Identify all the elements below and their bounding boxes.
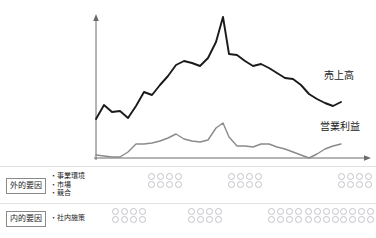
series-line (96, 17, 341, 119)
cluster-dot (228, 181, 235, 188)
cluster-dot (323, 208, 330, 215)
cluster-dot (246, 181, 253, 188)
cluster-dot (286, 208, 293, 215)
circle-cluster-internal (112, 208, 148, 224)
cluster-dot (358, 216, 365, 223)
cluster-dot (206, 208, 213, 215)
circle-cluster-external (338, 173, 374, 189)
cluster-dot (268, 216, 275, 223)
cluster-dot (365, 181, 372, 188)
circle-cluster-external (148, 173, 184, 189)
circle-cluster-internal (305, 208, 341, 224)
series-label-sales: 売上高 (324, 70, 354, 82)
series-line (96, 123, 341, 158)
circle-cluster-internal (188, 208, 224, 224)
cluster-dot (314, 216, 321, 223)
cluster-dot (206, 216, 213, 223)
cluster-dot (367, 208, 374, 215)
cluster-dot (215, 216, 222, 223)
cluster-dot (268, 208, 275, 215)
divider-bottom (0, 203, 376, 204)
cluster-dot (228, 173, 235, 180)
cluster-dot (356, 173, 363, 180)
factor-items-internal: ・社内施策 (50, 214, 85, 223)
cluster-dot (349, 216, 356, 223)
cluster-dot (112, 208, 119, 215)
cluster-dot (286, 216, 293, 223)
cluster-dot (338, 173, 345, 180)
cluster-dot (246, 173, 253, 180)
cluster-dot (112, 216, 119, 223)
cluster-dot (347, 181, 354, 188)
cluster-dot (157, 181, 164, 188)
cluster-dot (139, 216, 146, 223)
cluster-dot (332, 216, 339, 223)
factor-item: ・市場 (50, 181, 85, 190)
factor-item: ・競合 (50, 189, 85, 198)
cluster-dot (130, 216, 137, 223)
cluster-dot (305, 216, 312, 223)
cluster-dot (121, 216, 128, 223)
cluster-dot (237, 181, 244, 188)
cluster-dot (197, 216, 204, 223)
cluster-dot (157, 173, 164, 180)
factor-box-internal: 内的要因 (6, 211, 46, 227)
cluster-dot (188, 208, 195, 215)
cluster-dot (277, 216, 284, 223)
factor-items-external: ・事業環境・市場・競合 (50, 172, 85, 198)
cluster-dot (148, 173, 155, 180)
cluster-dot (166, 181, 173, 188)
cluster-dot (121, 208, 128, 215)
cluster-dot (338, 181, 345, 188)
cluster-dot (365, 173, 372, 180)
cluster-dot (255, 173, 262, 180)
cluster-dot (347, 173, 354, 180)
factor-item: ・社内施策 (50, 214, 85, 223)
factor-box-external: 外的要因 (6, 178, 46, 194)
chart-axes (93, 14, 371, 161)
x-axis-arrow-icon (364, 155, 371, 161)
cluster-dot (295, 208, 302, 215)
cluster-dot (356, 181, 363, 188)
factor-item: ・事業環境 (50, 172, 85, 181)
cluster-dot (340, 208, 347, 215)
cluster-dot (277, 208, 284, 215)
cluster-dot (130, 208, 137, 215)
circle-cluster-internal (340, 208, 376, 224)
cluster-dot (166, 173, 173, 180)
cluster-dot (358, 208, 365, 215)
cluster-dot (332, 208, 339, 215)
cluster-dot (323, 216, 330, 223)
circle-cluster-external (228, 173, 264, 189)
cluster-dot (314, 208, 321, 215)
series-layer (96, 17, 341, 158)
cluster-dot (295, 216, 302, 223)
cluster-dot (349, 208, 356, 215)
cluster-dot (175, 173, 182, 180)
chart-page: 売上高 営業利益 外的要因 ・事業環境・市場・競合 内的要因 ・社内施策 (0, 0, 376, 238)
cluster-dot (340, 216, 347, 223)
cluster-dot (148, 181, 155, 188)
cluster-dot (367, 216, 374, 223)
cluster-dot (237, 173, 244, 180)
cluster-dot (197, 208, 204, 215)
y-axis-arrow-icon (93, 14, 99, 21)
cluster-dot (215, 208, 222, 215)
cluster-dot (175, 181, 182, 188)
cluster-dot (188, 216, 195, 223)
series-label-profit: 営業利益 (320, 121, 360, 133)
cluster-dot (139, 208, 146, 215)
cluster-dot (305, 208, 312, 215)
cluster-dot (255, 181, 262, 188)
circle-cluster-internal (268, 208, 304, 224)
divider-top (0, 166, 376, 167)
